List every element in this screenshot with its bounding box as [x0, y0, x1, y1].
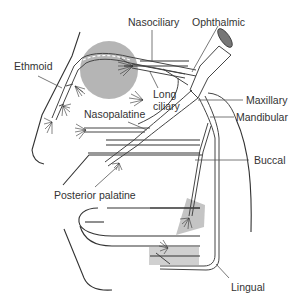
nerve-ending-ethmoid-1 [75, 86, 85, 97]
label-lingual: Lingual [231, 281, 265, 293]
posterior-palatine-leader [95, 167, 117, 187]
label-long-ciliary-2: ciliary [153, 100, 181, 112]
ethmoid-branch-1 [66, 84, 73, 86]
label-maxillary: Maxillary [246, 94, 288, 106]
trigeminal-trunk [190, 46, 231, 98]
label-nasociliary: Nasociliary [128, 16, 180, 28]
mandibular-nerve [160, 98, 215, 266]
maxillary-arc [208, 93, 236, 119]
ganglion-cut-end [215, 26, 235, 49]
lingual-leader [216, 264, 229, 278]
trigeminal-nerve-diagram: Nasociliary Ophthalmic Ethmoid Long cili… [0, 0, 298, 303]
label-ophthalmic: Ophthalmic [192, 16, 245, 28]
hard-palate-line [63, 155, 202, 185]
ophthalmic-branch [163, 69, 188, 85]
ethmoid-nerve-edge [56, 70, 78, 120]
face-outline-chin [64, 229, 112, 290]
nasopalatine-leader [128, 122, 147, 130]
label-ethmoid: Ethmoid [14, 60, 53, 72]
jaw-outline [236, 119, 251, 232]
long-ciliary-leader [150, 72, 158, 88]
face-outline-cheek [32, 150, 44, 164]
label-buccal: Buccal [254, 154, 286, 166]
nerve-ending-ethmoid-3 [44, 118, 52, 134]
label-long-ciliary-1: Long [153, 88, 177, 100]
face-outline-upper [32, 32, 80, 150]
label-posterior-palatine: Posterior palatine [54, 189, 136, 201]
label-nasopalatine: Nasopalatine [84, 108, 145, 120]
nerve-ending-ethmoid-2 [62, 104, 71, 116]
buccal-region [176, 198, 205, 235]
label-mandibular: Mandibular [236, 111, 288, 123]
nerve-ending-nasal [129, 91, 143, 106]
